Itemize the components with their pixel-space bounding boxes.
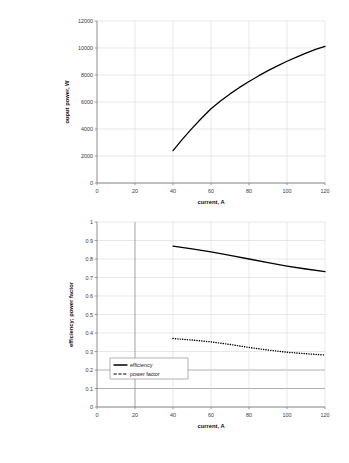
legend-label-efficiency: efficiency xyxy=(130,362,153,368)
y-tick-label: 0.5 xyxy=(86,312,94,318)
y-tick-label: 1 xyxy=(90,219,93,225)
x-tick-label: 0 xyxy=(96,188,99,194)
y-tick-label: 10000 xyxy=(78,45,93,51)
x-tick-label: 100 xyxy=(283,188,292,194)
x-tick-label: 80 xyxy=(246,412,252,418)
x-tick-label: 120 xyxy=(321,412,330,418)
y-tick-label: 12000 xyxy=(78,18,93,24)
y-tick-label: 0.7 xyxy=(86,275,94,281)
y-axis-title: ouput power, W xyxy=(64,80,70,124)
y-tick-label: 0.8 xyxy=(86,256,94,262)
x-tick-label: 0 xyxy=(96,412,99,418)
y-tick-label: 0.2 xyxy=(86,367,94,373)
x-tick-label: 40 xyxy=(170,188,176,194)
y-tick-label: 0.9 xyxy=(86,238,94,244)
x-axis-title: current, A xyxy=(197,199,225,205)
y-tick-label: 0.4 xyxy=(86,330,94,336)
y-tick-label: 0.3 xyxy=(86,349,94,355)
figure-svg: 0200040006000800010000120000204060801001… xyxy=(0,0,349,463)
x-axis-title: current, A xyxy=(197,423,225,429)
chart-panel-a: 0200040006000800010000120000204060801001… xyxy=(64,18,330,205)
y-tick-label: 0 xyxy=(90,404,93,410)
x-tick-label: 80 xyxy=(246,188,252,194)
x-tick-label: 100 xyxy=(283,412,292,418)
x-tick-label: 40 xyxy=(170,412,176,418)
legend-label-power-factor: power factor xyxy=(130,371,160,377)
y-tick-label: 0.6 xyxy=(86,293,94,299)
x-tick-label: 120 xyxy=(321,188,330,194)
y-tick-label: 8000 xyxy=(81,72,93,78)
x-tick-label: 60 xyxy=(208,412,214,418)
y-tick-label: 0 xyxy=(90,180,93,186)
y-tick-label: 4000 xyxy=(81,126,93,132)
y-tick-label: 6000 xyxy=(81,99,93,105)
y-axis-title: efficiency; power factor xyxy=(68,281,74,347)
x-tick-label: 20 xyxy=(132,188,138,194)
figure-container: 0200040006000800010000120000204060801001… xyxy=(0,0,349,463)
chart-panel-b: 00.10.20.30.40.50.60.70.80.9102040608010… xyxy=(68,219,330,429)
x-tick-label: 20 xyxy=(132,412,138,418)
y-tick-label: 2000 xyxy=(81,153,93,159)
x-tick-label: 60 xyxy=(208,188,214,194)
y-tick-label: 0.1 xyxy=(86,386,94,392)
